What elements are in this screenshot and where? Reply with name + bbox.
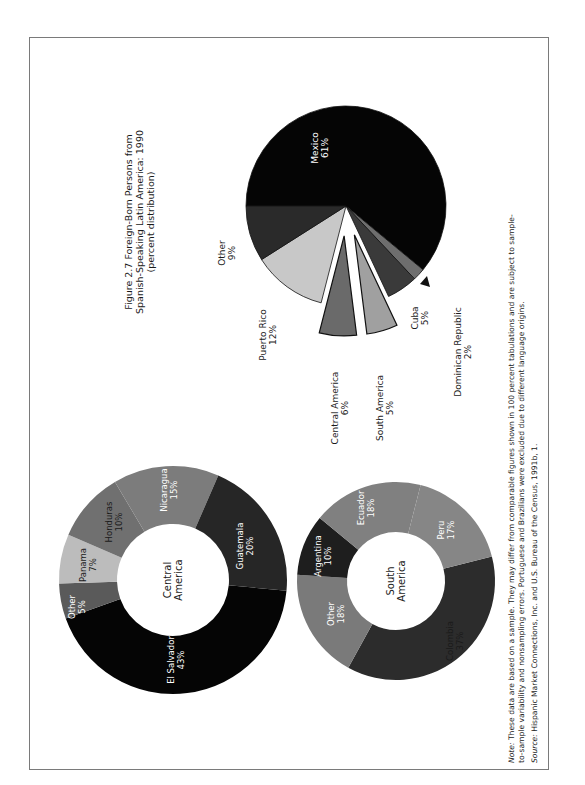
pie-label-cuba-line: Cuba (410, 306, 420, 329)
donut-label-other-line: 18% (336, 605, 346, 624)
donut-label-colombia-line: 37% (455, 632, 465, 651)
title-line-2: Spanish-Speaking Latin America: 1990 (134, 130, 145, 314)
donut-center-label: CentralAmerica (162, 559, 185, 600)
donut-label-honduras-line: Honduras (104, 501, 114, 542)
donut-center-label-line: America (396, 560, 407, 601)
donut-label-other: Other18% (326, 601, 346, 626)
source-text: Hispanic Market Connections, Inc. and U.… (530, 444, 539, 732)
donut-label-other-line: Other (326, 601, 336, 626)
figure-page: Figure 2.7 Foreign-Born Persons from Spa… (0, 0, 585, 785)
source-label: Source: (530, 734, 539, 763)
pie-label-cuba: Cuba5% (410, 306, 431, 329)
donut-label-peru-line: Peru (436, 521, 446, 540)
source-line: Source: Hispanic Market Connections, Inc… (530, 444, 539, 763)
figure-title: Figure 2.7 Foreign-Born Persons from Spa… (123, 130, 156, 314)
donut-label-peru: Peru17% (436, 521, 456, 540)
donut-label-argentina-line: Argentina (313, 535, 323, 576)
title-line-3: (percent distribution) (145, 172, 156, 273)
donut-center-label-line: South (385, 566, 396, 595)
donut-label-peru-line: 17% (446, 521, 456, 540)
donut-center-label: SouthAmerica (385, 560, 408, 601)
donut-label-panama-line: 7% (88, 558, 98, 572)
south-america-donut: Colombia37%Other18%Argentina10%Ecuador18… (297, 482, 495, 680)
pie-label-cuba-line: 5% (420, 310, 430, 325)
pie-label-other-line: Other (217, 240, 227, 266)
pie-label-dominican-republic-line: Dominican Republic (453, 307, 463, 396)
pie-label-south-america: South America5% (375, 375, 396, 441)
pie-label-other-line: 9% (227, 245, 237, 260)
note-label: Note: (507, 742, 516, 763)
donut-label-other-line: 5% (77, 600, 87, 614)
pie-label-puerto-rico: Puerto Rico12% (258, 309, 279, 361)
main-pie-chart (246, 106, 446, 336)
note-line-2: to-sample variability and nonsampling er… (517, 301, 526, 763)
pie-label-central-america: Central America6% (330, 372, 351, 445)
pie-label-central-america-line: 6% (340, 400, 350, 415)
figure-notes: Note: These data are based on a sample. … (507, 214, 539, 763)
donut-center-label-line: Central (162, 562, 173, 598)
figure-canvas: Figure 2.7 Foreign-Born Persons from Spa… (0, 0, 585, 785)
donut-label-panama-line: Panama (78, 548, 88, 582)
pie-label-other: Other9% (217, 240, 238, 266)
donut-label-honduras-line: 10% (114, 513, 124, 532)
donut-label-el-salvador-line: 43% (176, 651, 186, 670)
note-text-1: These data are based on a sample. They m… (507, 214, 516, 741)
donut-center-label-line: America (173, 559, 184, 600)
donut-label-nicaragua-line: 15% (169, 481, 179, 500)
donut-slice-colombia (348, 556, 495, 680)
pie-label-south-america-line: South America (375, 375, 385, 441)
pie-label-dominican-republic-line: 2% (463, 344, 473, 359)
pie-label-south-america-line: 5% (385, 400, 395, 415)
pie-label-puerto-rico-line: Puerto Rico (258, 309, 268, 361)
donut-label-argentina-line: 10% (323, 547, 333, 566)
donut-label-ecuador-line: Ecuador (356, 490, 366, 525)
donut-label-colombia-line: Colombia (445, 621, 455, 661)
donut-label-el-salvador-line: El Salvador (166, 636, 176, 684)
pie-label-mexico-line: 61% (320, 138, 330, 158)
central-america-donut: El Salvador43%Other5%Panama7%Honduras10%… (59, 466, 287, 694)
title-line-1: Figure 2.7 Foreign-Born Persons from (123, 134, 134, 310)
donut-label-other-line: Other (67, 594, 77, 619)
pie-label-puerto-rico-line: 12% (268, 325, 278, 345)
donut-label-nicaragua-line: Nicaragua (159, 468, 169, 511)
donut-label-guatemala-line: Guatemala (235, 523, 245, 570)
note-line-1: Note: These data are based on a sample. … (507, 214, 516, 763)
donut-label-ecuador-line: 18% (366, 499, 376, 518)
donut-label-guatemala-line: 20% (245, 537, 255, 556)
pie-label-mexico-line: Mexico (310, 132, 320, 164)
dominican-republic-pointer-icon (420, 276, 430, 287)
pie-label-central-america-line: Central America (330, 372, 340, 445)
pie-label-dominican-republic: Dominican Republic2% (453, 307, 474, 396)
